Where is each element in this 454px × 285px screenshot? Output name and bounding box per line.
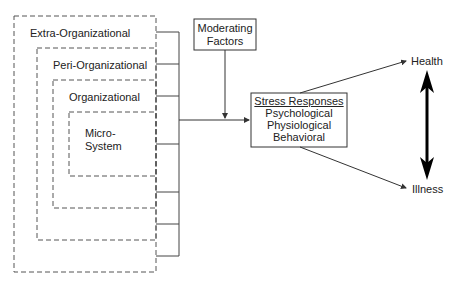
bracket-connector	[156, 32, 179, 256]
health-arrow	[300, 61, 406, 93]
stress-item-behavioral: Behavioral	[251, 131, 347, 144]
micro-system-label-line1: Micro-	[85, 127, 116, 140]
extra-organizational-label: Extra-Organizational	[30, 27, 130, 40]
peri-organizational-label: Peri-Organizational	[53, 59, 147, 72]
health-illness-double-arrow-icon	[420, 70, 434, 180]
moderating-factors-line2: Factors	[194, 35, 256, 48]
micro-system-label-line2: System	[85, 140, 122, 153]
organizational-label: Organizational	[69, 91, 140, 104]
illness-label: Illness	[412, 183, 443, 196]
moderating-factors-line1: Moderating	[194, 22, 256, 35]
illness-arrow	[300, 147, 406, 188]
health-label: Health	[411, 55, 443, 68]
